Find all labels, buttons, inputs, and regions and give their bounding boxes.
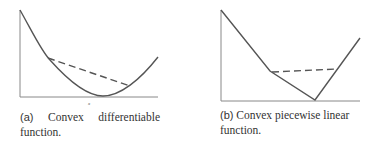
caption-a-label: (a) <box>20 110 33 125</box>
panel-a-dashed-chord <box>48 58 130 86</box>
panel-b-piecewise-linear-curve <box>221 10 360 100</box>
panel-a-convex-curve <box>20 10 158 96</box>
panel-b-dashed-chord <box>272 69 337 72</box>
caption-a-line-2: function. <box>20 125 160 140</box>
panel-a-x-label: x <box>87 101 91 106</box>
caption-b-label: (b) <box>220 109 233 121</box>
caption-b-line-1: Convex piecewise linear <box>236 109 349 121</box>
caption-a-word-2: differentiable <box>98 110 160 125</box>
caption-a-word-1: Convex <box>48 110 84 125</box>
caption-b: (b) Convex piecewise linear function. <box>220 108 365 138</box>
caption-b-line-2: function. <box>220 123 365 138</box>
panel-b <box>221 10 360 101</box>
panel-a: x <box>20 10 158 106</box>
caption-a: (a) Convex differentiable function. <box>20 110 160 140</box>
